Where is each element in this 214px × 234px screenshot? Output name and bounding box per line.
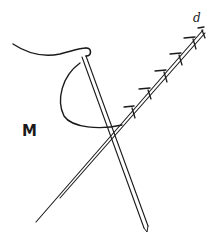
vertical-needle-tip: [144, 226, 148, 232]
thread-loop: [86, 48, 91, 56]
diagonal-needle-lower: [36, 30, 203, 222]
stitch-ticks: [124, 27, 205, 118]
figure-label: M: [22, 124, 37, 139]
vertical-needle-right: [86, 56, 148, 226]
thread-arc: [61, 63, 122, 128]
end-mark: d: [193, 12, 201, 24]
thread-curve: [13, 44, 86, 55]
needle-thread-illustration: [0, 0, 214, 234]
vertical-needle-left: [82, 57, 144, 228]
